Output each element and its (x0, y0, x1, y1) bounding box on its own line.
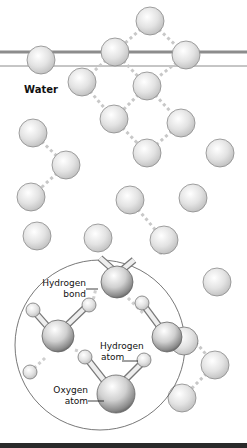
hydrogen-atom (137, 353, 151, 367)
oxygen-atom (42, 320, 74, 352)
hydrogen-bond-label-line2: bond (40, 288, 86, 300)
water-molecule (52, 151, 80, 179)
bottom-dark-bar (0, 443, 247, 448)
water-molecule-diagram: Water Hydrogen bond Hydrogen atom Oxygen… (0, 0, 247, 448)
water-molecule (167, 109, 195, 137)
water-molecule-c (135, 296, 198, 355)
hydrogen-atom (23, 365, 37, 379)
hydrogen-atom-label-line2: atom (101, 351, 124, 363)
water-molecule (136, 7, 164, 35)
water-molecule (17, 183, 45, 211)
water-molecule (150, 226, 178, 254)
water-molecule (116, 186, 144, 214)
water-molecule-a (100, 258, 134, 298)
oxygen-atom (152, 322, 182, 352)
oxygen-atom-label-line2: atom (50, 395, 88, 407)
hydrogen-atom (26, 303, 40, 317)
water-molecule (101, 38, 129, 66)
water-molecule (68, 68, 96, 96)
water-molecule (168, 384, 196, 412)
water-molecule (179, 184, 207, 212)
hydrogen-atom (135, 296, 149, 310)
water-molecule (23, 222, 51, 250)
water-molecule (172, 41, 200, 69)
hydrogen-atom (78, 350, 92, 364)
water-molecule-b (26, 298, 96, 352)
water-molecule (201, 351, 229, 379)
oxygen-atom (97, 375, 135, 413)
water-molecule (27, 46, 55, 74)
water-molecule (84, 224, 112, 252)
water-molecule (203, 268, 231, 296)
water-molecule (206, 139, 234, 167)
diagram-canvas (0, 0, 247, 448)
hydrogen-atom (82, 298, 96, 312)
oxygen-atom (101, 266, 133, 298)
water-molecule (133, 139, 161, 167)
water-title: Water (24, 84, 58, 96)
water-molecule (100, 105, 128, 133)
water-molecule (133, 72, 161, 100)
water-molecule (19, 119, 47, 147)
